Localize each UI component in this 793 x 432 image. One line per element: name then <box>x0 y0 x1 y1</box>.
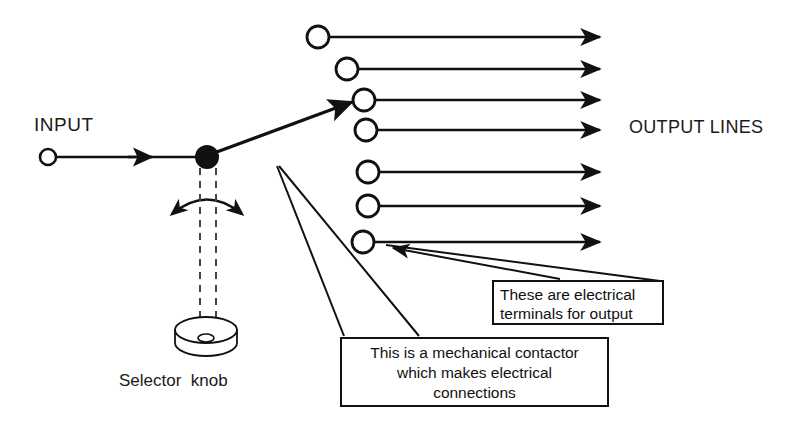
contactor-arm[interactable] <box>214 102 352 153</box>
input-label: INPUT <box>34 114 94 136</box>
terminals-leader-upper <box>386 245 660 281</box>
switch-diagram: INPUT OUTPUT LINES Selector knob These a… <box>0 0 793 432</box>
output-terminal-1[interactable] <box>307 26 329 48</box>
terminals-callout-leaders <box>386 245 660 281</box>
selector-knob[interactable] <box>175 317 237 356</box>
contactor-callout-line-2: which makes electrical <box>348 363 601 383</box>
output-terminal-2[interactable] <box>336 58 358 80</box>
output-terminal-3[interactable] <box>353 89 375 111</box>
contactor-pivot[interactable] <box>196 146 218 168</box>
contactor-callout-box: This is a mechanical contactor which mak… <box>340 337 609 407</box>
output-terminal-6[interactable] <box>357 195 379 217</box>
contactor-group <box>196 102 352 168</box>
output-terminals-group <box>307 26 600 253</box>
rotation-arc-icon <box>172 200 242 215</box>
selector-knob-label: Selector knob <box>119 371 228 391</box>
terminals-callout-line-1: These are electrical <box>500 285 656 304</box>
rotation-arc-group <box>172 200 242 215</box>
contactor-leader-right <box>279 166 419 336</box>
output-terminal-7[interactable] <box>352 231 374 253</box>
output-lines-label: OUTPUT LINES <box>629 117 763 138</box>
contactor-leader-left <box>277 166 344 336</box>
input-terminal[interactable] <box>40 149 56 165</box>
terminals-callout-line-2: terminals for output <box>500 304 656 323</box>
output-terminal-5[interactable] <box>357 161 379 183</box>
terminals-callout-box: These are electrical terminals for outpu… <box>492 280 664 325</box>
shaft-group <box>200 168 216 330</box>
contactor-callout-line-1: This is a mechanical contactor <box>348 343 601 363</box>
contactor-callout-leaders <box>277 166 419 336</box>
contactor-callout-line-3: connections <box>348 383 601 403</box>
input-group <box>40 149 205 165</box>
output-terminal-4[interactable] <box>355 119 377 141</box>
terminals-leader-lower <box>393 248 560 279</box>
knob-center-hole <box>198 334 214 342</box>
